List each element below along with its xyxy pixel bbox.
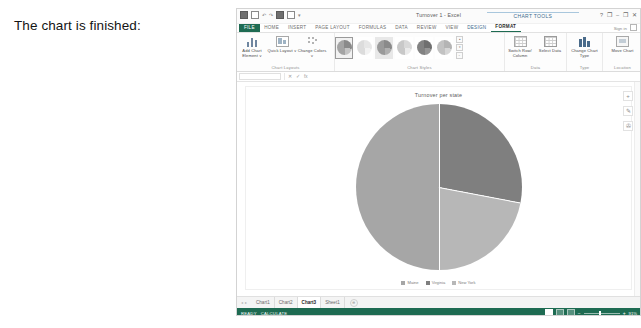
legend-label: New York [458,280,475,285]
minimize-icon[interactable]: – [616,11,619,19]
ribbon-group-location: Move Chart Location [603,33,641,71]
tab-review[interactable]: REVIEW [412,24,441,32]
window-controls[interactable]: ? ❐ – ❐ ✕ [600,11,637,19]
enter-formula-icon[interactable]: ✓ [296,74,300,79]
zoom-level-label[interactable]: 91% [629,311,637,316]
pie-thumbnail-icon [337,40,352,55]
pie-chart[interactable] [356,104,522,270]
chart-legend[interactable]: Maine Virginia New York [246,280,631,285]
sign-in-label: Sign in [614,26,627,31]
move-chart-button[interactable]: Move Chart [608,35,638,54]
account-icon[interactable] [630,24,637,31]
group-label-data: Data [505,65,566,70]
help-icon[interactable]: ? [600,11,603,19]
legend-item[interactable]: New York [452,280,475,285]
formula-bar-divider [284,73,285,80]
add-sheet-button[interactable]: ⊕ [350,299,358,307]
chart-styles-gallery[interactable]: ▴ ▾ ⌄ [335,33,504,59]
select-data-label: Select Data [539,49,561,54]
add-chart-element-button[interactable]: Add Chart Element ˅ [237,35,267,58]
window-title: Turnover 1 - Excel [237,12,640,18]
tab-home[interactable]: HOME [260,24,284,32]
group-label-chart-styles: Chart Styles [335,65,504,70]
gallery-scroll-down-icon[interactable]: ▾ [456,44,463,51]
formula-input[interactable] [312,72,640,81]
sheet-tab-chart3[interactable]: Chart3 [298,297,322,308]
zoom-in-icon[interactable]: + [623,311,626,316]
sheet-tab-sheet1[interactable]: Sheet1 [321,297,345,308]
excel-window: ↶ ↷ ▾ Turnover 1 - Excel CHART TOOLS ? ❐… [236,8,641,316]
tab-data[interactable]: DATA [391,24,413,32]
normal-view-icon[interactable] [545,309,553,316]
formula-bar: ✕ ✓ fx [237,72,640,82]
pie-thumbnail-icon [437,40,452,55]
restore-icon[interactable]: ❐ [623,11,628,19]
chart-side-buttons[interactable]: + ✎ ✇ [623,91,633,131]
zoom-slider[interactable] [584,310,620,316]
chart-elements-button[interactable]: + [623,91,633,101]
tab-view[interactable]: VIEW [441,24,463,32]
ribbon-group-chart-styles: ▴ ▾ ⌄ Chart Styles [335,33,505,71]
title-bar: ↶ ↷ ▾ Turnover 1 - Excel CHART TOOLS ? ❐… [237,9,640,24]
insert-function-icon[interactable]: fx [304,74,308,79]
select-data-button[interactable]: Select Data [535,35,565,54]
sheet-nav-arrows[interactable]: ◂ ▸ [241,300,247,305]
ribbon-display-options-icon[interactable]: ❐ [607,11,612,19]
quick-layout-button[interactable]: Quick Layout ˅ [267,35,297,54]
chart-style-thumbnail[interactable] [355,37,373,59]
zoom-slider-track [584,313,620,314]
switch-row-column-icon [514,35,527,48]
chart-title[interactable]: Turnover per state [246,92,631,98]
status-bar: READY CALCULATE − + 91% [237,308,640,316]
group-label-type: Type [567,65,602,70]
chart-style-thumbnail[interactable] [335,37,353,59]
tab-page-layout[interactable]: PAGE LAYOUT [311,24,355,32]
legend-label: Maine [407,280,418,285]
chart-style-thumbnail[interactable] [435,37,453,59]
chart-styles-button[interactable]: ✎ [623,106,633,116]
name-box[interactable] [239,73,281,80]
switch-row-column-button[interactable]: Switch Row/ Column [505,35,535,58]
change-chart-type-button[interactable]: Change Chart Type [570,35,600,58]
sheet-tab-chart2[interactable]: Chart2 [275,297,298,308]
legend-swatch [452,281,456,285]
zoom-out-icon[interactable]: − [578,311,581,316]
switch-row-column-label: Switch Row/ Column [505,49,535,58]
legend-item[interactable]: Maine [401,280,418,285]
ribbon-tab-row: FILE HOME INSERT PAGE LAYOUT FORMULAS DA… [237,24,640,33]
group-label-location: Location [603,65,641,70]
next-sheet-icon[interactable]: ▸ [245,300,247,305]
first-sheet-icon[interactable]: ◂ [241,300,243,305]
status-bar-right: − + 91% [545,309,637,316]
zoom-slider-knob[interactable] [599,311,601,316]
tab-file[interactable]: FILE [239,24,260,32]
legend-label: Virginia [432,280,446,285]
close-icon[interactable]: ✕ [632,11,637,19]
tab-insert[interactable]: INSERT [283,24,310,32]
chart-style-thumbnail[interactable] [395,37,413,59]
gallery-scroll-buttons[interactable]: ▴ ▾ ⌄ [456,36,463,59]
tab-design[interactable]: DESIGN [463,24,491,32]
sign-in-button[interactable]: Sign in [614,24,637,33]
chart-style-thumbnail[interactable] [375,37,393,59]
sheet-tab-chart1[interactable]: Chart1 [252,297,275,308]
chart-filters-button[interactable]: ✇ [623,121,633,131]
chart-style-thumbnail[interactable] [415,37,433,59]
page-layout-view-icon[interactable] [556,309,564,316]
vertical-scrollbar[interactable] [634,82,640,296]
legend-swatch [401,281,405,285]
pie-thumbnail-icon [377,40,392,55]
chart-area[interactable]: Turnover per state Maine Virginia [245,86,632,290]
gallery-scroll-up-icon[interactable]: ▴ [456,36,463,43]
status-calculate: CALCULATE [261,311,288,316]
gallery-more-icon[interactable]: ⌄ [456,52,463,59]
quick-layout-icon [276,35,289,48]
legend-item[interactable]: Virginia [426,280,446,285]
tab-format[interactable]: FORMAT [491,23,521,32]
cancel-formula-icon[interactable]: ✕ [288,74,292,79]
tab-formulas[interactable]: FORMULAS [354,24,391,32]
ribbon-tabs: FILE HOME INSERT PAGE LAYOUT FORMULAS DA… [239,24,521,32]
sheet-tabs: Chart1 Chart2 Chart3 Sheet1 [252,297,345,308]
change-colors-button[interactable]: Change Colors ˅ [297,35,327,58]
page-break-view-icon[interactable] [567,309,575,316]
